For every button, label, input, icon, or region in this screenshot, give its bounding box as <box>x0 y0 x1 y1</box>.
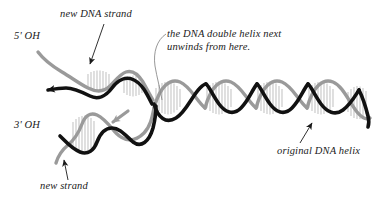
label-unwind-note: the DNA double helix next unwinds from h… <box>167 28 297 53</box>
label-new-strand: new strand <box>40 180 88 193</box>
label-original-dna-helix: original DNA helix <box>277 145 360 158</box>
strand-direction-arrowheads <box>113 111 128 122</box>
lower-template-strand <box>56 108 154 163</box>
pointer-new-strand <box>64 160 68 180</box>
dna-replication-figure: new DNA strand 5' OH 3' OH the DNA doubl… <box>0 0 391 203</box>
label-three-prime-oh: 3' OH <box>14 119 40 132</box>
pointer-new-dna-strand <box>90 24 104 64</box>
arrowhead-lower-template-strand <box>113 111 128 122</box>
label-five-prime-oh: 5' OH <box>14 30 40 43</box>
pointer-original-dna-helix <box>300 123 312 143</box>
lower-new-strand <box>60 106 156 153</box>
label-new-dna-strand: new DNA strand <box>60 8 132 21</box>
